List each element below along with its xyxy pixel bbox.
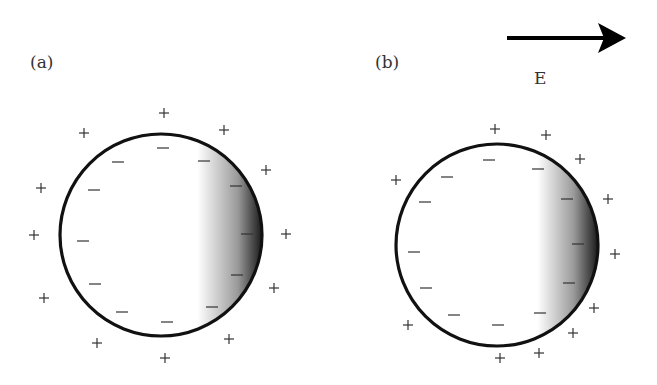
positive-charge-icon <box>160 353 170 363</box>
positive-charge-icon <box>219 125 229 135</box>
positive-charge-icon <box>589 303 599 313</box>
positive-charge-icon <box>541 130 551 140</box>
panel-a: (a) <box>29 52 291 363</box>
positive-charge-icon <box>603 194 613 204</box>
panel-b: (b) <box>375 52 620 363</box>
positive-charge-icon <box>534 348 544 358</box>
positive-charge-icon <box>495 353 505 363</box>
positive-charge-icon <box>159 108 169 118</box>
positive-charge-icon <box>29 230 39 240</box>
positive-charge-icon <box>79 128 89 138</box>
panel-label: (b) <box>375 52 399 72</box>
positive-charge-icon <box>610 249 620 259</box>
positive-charge-icon <box>224 334 234 344</box>
positive-charge-icon <box>391 175 401 185</box>
positive-charge-icon <box>575 154 585 164</box>
positive-charge-icon <box>269 283 279 293</box>
positive-charge-icon <box>281 229 291 239</box>
positive-charge-icon <box>261 165 271 175</box>
electric-field-indicator: E <box>507 23 626 88</box>
positive-charge-icon <box>490 124 500 134</box>
positive-charge-icon <box>568 328 578 338</box>
sphere <box>396 144 598 346</box>
field-label: E <box>534 68 546 88</box>
positive-charge-icon <box>36 183 46 193</box>
positive-charge-icon <box>403 320 413 330</box>
polarization-diagram: (a)(b) E <box>0 0 657 385</box>
positive-charge-icon <box>92 338 102 348</box>
sphere <box>60 134 262 336</box>
positive-charge-icon <box>39 293 49 303</box>
panel-label: (a) <box>30 52 53 72</box>
